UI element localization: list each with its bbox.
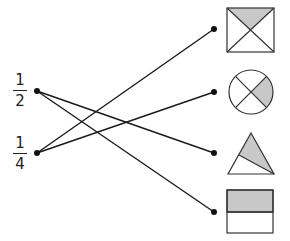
dot-circle[interactable] bbox=[211, 89, 217, 95]
circle-quarter-shaded-shape bbox=[229, 70, 273, 114]
dot-square[interactable] bbox=[211, 26, 217, 32]
fraction-numerator: 1 bbox=[12, 136, 28, 151]
fraction-one-quarter: 1 4 bbox=[12, 136, 28, 172]
rectangle-half-shaded-shape bbox=[227, 190, 273, 233]
square-quarter-shaded-shape bbox=[227, 8, 274, 52]
fraction-one-half: 1 2 bbox=[12, 73, 28, 109]
connection-lines bbox=[37, 29, 214, 212]
fraction-bar bbox=[13, 90, 27, 91]
triangle-half-shaded-shape bbox=[228, 133, 274, 174]
fraction-numerator: 1 bbox=[12, 73, 28, 88]
fraction-denominator: 2 bbox=[12, 94, 28, 109]
fraction-denominator: 4 bbox=[12, 157, 28, 172]
dot-quarter[interactable] bbox=[34, 150, 40, 156]
matching-diagram bbox=[0, 0, 290, 241]
connection-dots bbox=[34, 26, 217, 215]
fraction-bar bbox=[13, 153, 27, 154]
dot-rectangle[interactable] bbox=[211, 209, 217, 215]
dot-triangle[interactable] bbox=[211, 150, 217, 156]
line-half-to-rectangle bbox=[37, 91, 214, 212]
line-quarter-to-square bbox=[37, 29, 214, 153]
dot-half[interactable] bbox=[34, 88, 40, 94]
